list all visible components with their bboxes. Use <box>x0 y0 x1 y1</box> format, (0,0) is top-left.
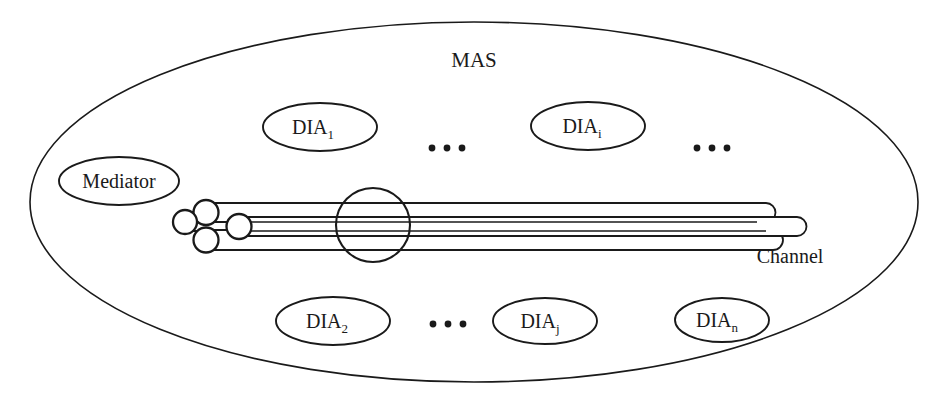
agent-label-dia-j-subscript: j <box>555 321 560 336</box>
agent-node-dia-j[interactable]: DIAj <box>493 298 597 344</box>
agent-label-dia-j-text: DIA <box>520 310 556 332</box>
mas-diagram-canvas: MAS Channel M <box>0 0 944 405</box>
ellipsis-dot <box>459 145 466 152</box>
ellipsis-top-left <box>429 145 466 152</box>
agent-label-dia-2-subscript: 2 <box>342 321 349 336</box>
agent-label-dia-1-text: DIA <box>292 116 328 138</box>
ellipsis-dot <box>694 145 701 152</box>
channel-cap-bottom <box>194 228 219 253</box>
channel-cap-mid-right <box>227 214 252 239</box>
mas-boundary-ellipse <box>30 22 918 382</box>
agent-label-dia-n-text: DIA <box>696 309 732 331</box>
ellipsis-dot <box>430 321 437 328</box>
ellipsis-bottom <box>430 321 467 328</box>
channel-tube-3 <box>230 217 807 236</box>
mediator-label: Mediator <box>82 170 156 192</box>
agent-node-dia-i[interactable]: DIAi <box>531 102 645 150</box>
agent-label-dia-i-subscript: i <box>598 126 602 141</box>
agent-node-dia-1[interactable]: DIA1 <box>263 103 377 151</box>
ellipsis-top-right <box>694 145 731 152</box>
ellipsis-dot <box>444 145 451 152</box>
channel-cap-mid-left <box>173 210 197 234</box>
agent-label-dia-1-subscript: 1 <box>328 127 335 142</box>
agent-node-dia-2[interactable]: DIA2 <box>276 297 390 345</box>
ellipsis-dot <box>724 145 731 152</box>
channel-group: Channel <box>173 188 824 267</box>
ellipsis-dot <box>445 321 452 328</box>
agent-node-dia-n[interactable]: DIAn <box>675 298 769 342</box>
agent-label-dia-2-text: DIA <box>306 310 342 332</box>
mas-label: MAS <box>451 48 497 72</box>
ellipsis-dot <box>709 145 716 152</box>
mediator-node[interactable]: Mediator <box>59 157 179 205</box>
channel-label: Channel <box>757 245 824 267</box>
agent-label-dia-n-subscript: n <box>732 320 739 335</box>
agent-label-dia-i-text: DIA <box>562 115 598 137</box>
ellipsis-dot <box>429 145 436 152</box>
ellipsis-dot <box>460 321 467 328</box>
mas-diagram-root: MAS Channel M <box>0 0 944 405</box>
